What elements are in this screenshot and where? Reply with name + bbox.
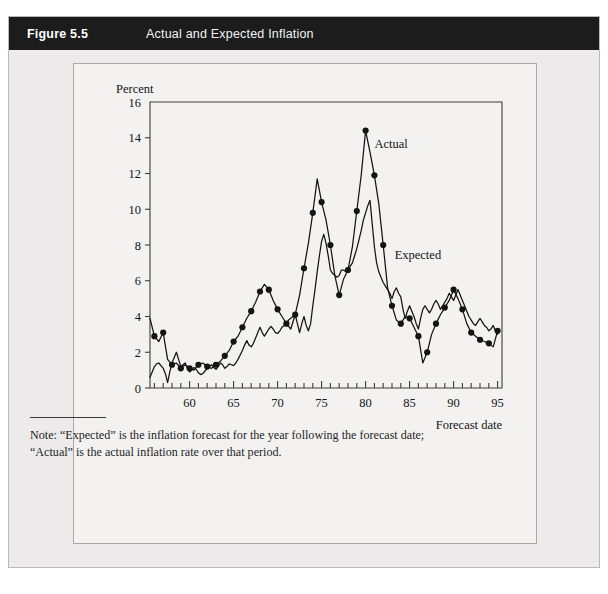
data-point-marker xyxy=(451,287,457,293)
x-tick-label: 60 xyxy=(183,396,196,410)
data-point-marker xyxy=(389,303,395,309)
data-point-marker xyxy=(222,353,228,359)
y-tick-label: 6 xyxy=(135,274,141,288)
data-point-marker xyxy=(239,324,245,330)
note-divider-rule xyxy=(30,417,106,418)
data-point-marker xyxy=(151,333,157,339)
series-line-expected xyxy=(150,200,498,382)
data-point-marker xyxy=(424,349,430,355)
data-point-marker xyxy=(257,288,263,294)
figure-note: Note: “Expected” is the inflation foreca… xyxy=(30,417,454,460)
data-point-marker xyxy=(266,287,272,293)
x-tick-label: 85 xyxy=(403,396,416,410)
data-point-marker xyxy=(327,242,333,248)
x-tick-label: 70 xyxy=(271,396,284,410)
data-point-marker xyxy=(371,172,377,178)
inflation-line-chart: 0246810121416Percent6065707580859095Fore… xyxy=(74,64,536,464)
x-tick-label: 95 xyxy=(491,396,504,410)
chart-panel: 0246810121416Percent6065707580859095Fore… xyxy=(73,63,537,544)
series-line-actual xyxy=(150,131,498,371)
y-tick-label: 4 xyxy=(135,310,142,324)
data-point-marker xyxy=(160,329,166,335)
data-point-marker xyxy=(380,242,386,248)
x-tick-label: 90 xyxy=(447,396,460,410)
data-point-marker xyxy=(301,265,307,271)
y-tick-label: 8 xyxy=(135,239,141,253)
y-tick-label: 14 xyxy=(129,131,142,145)
figure-number: Figure 5.5 xyxy=(27,27,88,41)
y-tick-label: 12 xyxy=(129,167,142,181)
data-point-marker xyxy=(195,362,201,368)
y-tick-label: 10 xyxy=(129,203,142,217)
data-point-marker xyxy=(477,337,483,343)
data-point-marker xyxy=(415,333,421,339)
data-point-marker xyxy=(310,210,316,216)
y-tick-label: 16 xyxy=(129,96,142,110)
y-tick-label: 0 xyxy=(135,382,141,396)
data-point-marker xyxy=(468,329,474,335)
data-point-marker xyxy=(231,338,237,344)
data-point-marker xyxy=(319,199,325,205)
data-point-marker xyxy=(248,308,254,314)
series-annotation-actual: Actual xyxy=(374,137,408,151)
data-point-marker xyxy=(433,321,439,327)
figure-header-band: Figure 5.5 Actual and Expected Inflation xyxy=(9,17,599,50)
data-point-marker xyxy=(363,128,369,134)
y-tick-label: 2 xyxy=(135,346,141,360)
series-annotation-expected: Expected xyxy=(395,248,442,262)
data-point-marker xyxy=(354,208,360,214)
x-tick-label: 80 xyxy=(359,396,372,410)
y-axis-title: Percent xyxy=(116,82,154,96)
data-point-marker xyxy=(336,292,342,298)
figure-title: Actual and Expected Inflation xyxy=(146,27,314,41)
data-point-marker xyxy=(407,315,413,321)
data-point-marker xyxy=(398,321,404,327)
figure-box: Figure 5.5 Actual and Expected Inflation… xyxy=(8,16,600,568)
x-tick-label: 75 xyxy=(315,396,328,410)
note-text: Note: “Expected” is the inflation foreca… xyxy=(30,427,454,460)
data-point-marker xyxy=(275,306,281,312)
data-point-marker xyxy=(486,340,492,346)
x-tick-label: 65 xyxy=(227,396,240,410)
